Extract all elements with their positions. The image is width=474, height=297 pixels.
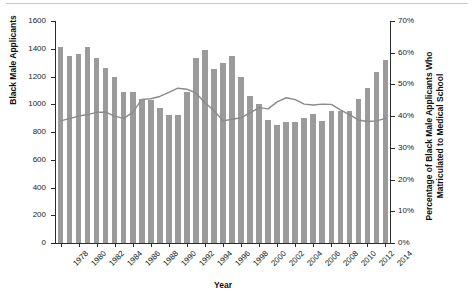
x-axis-tick-label: 2010 <box>360 249 379 268</box>
line-series-svg <box>56 21 390 243</box>
x-axis-title: Year <box>56 280 390 290</box>
y-axis-left-tick-label: 1600 <box>0 16 46 25</box>
x-axis-tick <box>367 244 368 247</box>
y-axis-right-tick <box>391 148 395 149</box>
y-axis-right-tick-label: 40% <box>398 111 414 120</box>
x-axis-tick-label: 2000 <box>269 249 288 268</box>
x-axis-tick-label: 1998 <box>251 249 270 268</box>
x-axis-tick <box>79 244 80 247</box>
x-axis-tick <box>313 244 314 247</box>
y-axis-right-title-wrap: Percentage of Black Male Applicants Who … <box>424 36 448 236</box>
y-axis-right-tick-label: 0% <box>398 238 410 247</box>
y-axis-right-tick-label: 10% <box>398 206 414 215</box>
x-axis-tick-label: 2006 <box>323 249 342 268</box>
y-axis-left-tick-label: 1000 <box>0 99 46 108</box>
x-axis-tick-label: 1992 <box>197 249 216 268</box>
x-axis-tick-label: 1978 <box>71 249 90 268</box>
x-axis-tick <box>277 244 278 247</box>
x-axis-tick <box>187 244 188 247</box>
x-axis-tick <box>133 244 134 247</box>
x-axis-tick <box>241 244 242 247</box>
x-axis-tick <box>331 244 332 247</box>
chart-figure: Black Male Applicants Percentage of Blac… <box>0 0 474 297</box>
x-axis-tick-label: 1988 <box>161 249 180 268</box>
y-axis-left-tick-label: 1200 <box>0 72 46 81</box>
y-axis-left-tick <box>51 160 55 161</box>
x-axis-tick-label: 1982 <box>107 249 126 268</box>
x-axis-tick <box>295 244 296 247</box>
y-axis-left-tick-label: 1400 <box>0 44 46 53</box>
y-axis-left-tick <box>51 21 55 22</box>
x-axis-tick-label: 2002 <box>287 249 306 268</box>
x-axis-tick <box>61 244 62 247</box>
x-axis-tick-label: 1980 <box>89 249 108 268</box>
y-axis-left-tick <box>51 188 55 189</box>
y-axis-left-tick-label: 400 <box>0 183 46 192</box>
y-axis-left-tick-label: 200 <box>0 210 46 219</box>
y-axis-left-tick <box>51 77 55 78</box>
y-axis-right-title: Percentage of Black Male Applicants Who … <box>424 36 446 236</box>
y-axis-right-tick-label: 70% <box>398 16 414 25</box>
x-axis-tick <box>259 244 260 247</box>
y-axis-left-tick <box>51 215 55 216</box>
x-axis-tick-label: 1990 <box>179 249 198 268</box>
matriculation-rate-line <box>61 88 386 121</box>
x-axis-tick <box>169 244 170 247</box>
x-axis-tick-label: 1986 <box>143 249 162 268</box>
y-axis-left-tick <box>51 49 55 50</box>
y-axis-right-tick-label: 20% <box>398 175 414 184</box>
line-series-layer <box>56 21 390 243</box>
x-axis-tick <box>97 244 98 247</box>
x-axis-tick-label: 2012 <box>378 249 397 268</box>
y-axis-left-tick-label: 0 <box>0 238 46 247</box>
top-divider <box>6 3 468 4</box>
y-axis-right-tick-label: 60% <box>398 48 414 57</box>
x-axis-tick <box>349 244 350 247</box>
y-axis-right-tick <box>391 243 395 244</box>
y-axis-right-tick <box>391 211 395 212</box>
y-axis-left-tick-label: 600 <box>0 155 46 164</box>
x-axis-tick-label: 2014 <box>396 249 415 268</box>
y-axis-right-tick-label: 50% <box>398 79 414 88</box>
x-axis-tick <box>385 244 386 247</box>
y-axis-right-tick <box>391 21 395 22</box>
y-axis-right-tick <box>391 84 395 85</box>
y-axis-right-tick <box>391 116 395 117</box>
x-axis-tick <box>115 244 116 247</box>
x-axis-tick <box>151 244 152 247</box>
y-axis-left-tick <box>51 243 55 244</box>
y-axis-left-tick-label: 800 <box>0 127 46 136</box>
x-axis-tick-label: 1994 <box>215 249 234 268</box>
plot-area <box>56 21 390 243</box>
x-axis-tick-label: 1984 <box>125 249 144 268</box>
y-axis-left-tick <box>51 104 55 105</box>
x-axis-tick-label: 2008 <box>342 249 361 268</box>
y-axis-right-tick <box>391 53 395 54</box>
x-axis-tick <box>223 244 224 247</box>
x-axis-tick-label: 1996 <box>233 249 252 268</box>
y-axis-right-tick-label: 30% <box>398 143 414 152</box>
y-axis-right-tick <box>391 180 395 181</box>
x-axis-tick <box>205 244 206 247</box>
x-axis-tick-label: 2004 <box>305 249 324 268</box>
y-axis-left-tick <box>51 132 55 133</box>
